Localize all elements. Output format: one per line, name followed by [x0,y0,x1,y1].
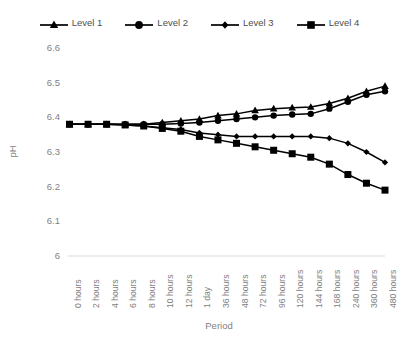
x-axis-tick-label: 10 hours [166,275,175,308]
x-axis-tick-label: 72 hours [259,275,268,308]
x-axis-tick-label: 2 hours [92,279,101,308]
data-point-marker [252,133,258,139]
series-line-level-2 [66,88,388,127]
data-point-marker [344,171,351,178]
data-point-marker [363,149,369,155]
data-point-marker [85,121,92,128]
data-point-marker [381,82,389,89]
data-point-marker [196,119,202,125]
data-point-marker [215,118,221,124]
x-axis-tick-label: 240 hours [352,270,361,308]
data-point-marker [214,136,221,143]
data-point-marker [196,133,203,140]
data-point-marker [178,120,184,126]
data-point-marker [252,143,259,150]
data-point-marker [382,187,389,194]
x-axis-tick-label: 168 hours [333,270,342,308]
x-axis-tick-label: 96 hours [278,275,287,308]
data-point-marker [363,92,369,98]
data-point-marker [307,154,314,161]
data-point-marker [270,112,276,118]
series-line-level-4 [66,121,389,194]
x-axis-tick-label: 144 hours [315,270,324,308]
data-point-marker [363,180,370,187]
x-axis-tick-label: 360 hours [370,270,379,308]
x-axis-tick-label: 12 hours [185,275,194,308]
series-line-level-3 [66,121,388,165]
data-point-marker [345,99,351,105]
data-point-marker [177,128,184,135]
ph-period-line-chart: Level 1 Level 2 Level 3 [0,0,398,341]
x-axis-tick-label: 36 hours [222,275,231,308]
x-axis-title: Period [0,320,398,331]
x-axis-tick-label: 48 hours [241,275,250,308]
data-point-marker [289,111,295,117]
data-point-marker [326,135,332,141]
data-point-marker [308,111,314,117]
series-path [70,124,386,190]
x-axis-tick-label: 4 hours [111,279,120,308]
x-axis-tick-label: 6 hours [129,279,138,308]
data-point-marker [271,133,277,139]
data-point-marker [326,161,333,168]
x-axis-tick-label: 8 hours [148,279,157,308]
data-point-marker [382,159,388,165]
data-point-marker [122,121,129,128]
x-axis-tick-label: 120 hours [296,270,305,308]
data-point-marker [140,123,147,130]
data-point-marker [233,133,239,139]
data-point-marker [289,150,296,157]
data-point-marker [326,105,332,111]
series-path [70,124,386,162]
data-point-marker [345,140,351,146]
data-point-marker [289,133,295,139]
data-point-marker [159,125,166,132]
data-point-marker [382,88,388,94]
data-point-marker [308,133,314,139]
data-point-marker [252,114,258,120]
data-point-marker [233,116,239,122]
x-axis-tick-label: 1 day [203,287,212,308]
x-axis-tick-label: 0 hours [74,279,83,308]
data-point-marker [103,121,110,128]
series-path [70,91,386,124]
data-point-marker [66,121,73,128]
data-point-marker [270,147,277,154]
x-axis-tick-label: 480 hours [389,270,398,308]
data-point-marker [233,140,240,147]
